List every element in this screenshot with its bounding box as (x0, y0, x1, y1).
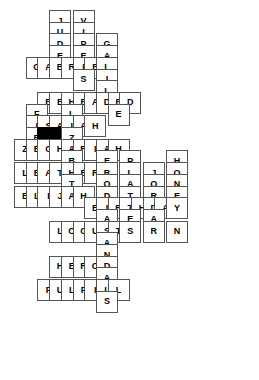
crossword-letter-cell[interactable]: S (96, 291, 118, 313)
crossword-letter-cell[interactable]: S (119, 221, 141, 243)
crossword-letter-cell[interactable]: N (166, 221, 188, 243)
crossword-letter-cell[interactable]: H (84, 115, 106, 137)
crossword-letter-cell[interactable]: S (73, 69, 95, 91)
crossword-letter-cell[interactable]: R (143, 221, 165, 243)
crossword-grid: JVUIDPGEEAGABRIELSILBEHEADEDFLEISAIAHRZZ… (0, 0, 259, 380)
crossword-letter-cell[interactable]: Y (166, 197, 188, 219)
crossword-letter-cell[interactable]: E (108, 104, 130, 126)
